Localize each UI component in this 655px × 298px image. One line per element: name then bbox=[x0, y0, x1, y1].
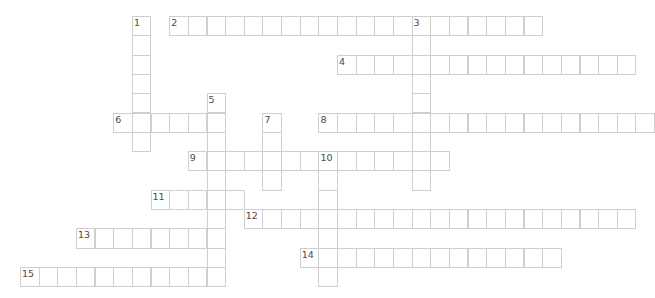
crossword-cell[interactable] bbox=[524, 113, 544, 133]
crossword-cell[interactable] bbox=[207, 248, 227, 268]
crossword-cell[interactable] bbox=[132, 35, 152, 55]
crossword-cell[interactable] bbox=[356, 209, 376, 229]
crossword-cell[interactable] bbox=[356, 16, 376, 36]
crossword-cell[interactable] bbox=[430, 55, 450, 75]
crossword-cell[interactable] bbox=[580, 113, 600, 133]
crossword-cell[interactable] bbox=[95, 228, 115, 248]
crossword-cell[interactable] bbox=[207, 151, 227, 171]
crossword-cell[interactable] bbox=[356, 113, 376, 133]
crossword-cell[interactable] bbox=[188, 190, 208, 210]
crossword-cell[interactable] bbox=[169, 113, 189, 133]
crossword-cell[interactable] bbox=[300, 151, 320, 171]
crossword-cell[interactable]: 14 bbox=[300, 248, 320, 268]
crossword-cell[interactable] bbox=[374, 113, 394, 133]
crossword-cell[interactable] bbox=[281, 151, 301, 171]
crossword-cell[interactable] bbox=[542, 55, 562, 75]
crossword-cell[interactable] bbox=[430, 209, 450, 229]
crossword-cell[interactable] bbox=[412, 170, 432, 190]
crossword-cell[interactable] bbox=[542, 209, 562, 229]
crossword-cell[interactable] bbox=[132, 228, 152, 248]
crossword-cell[interactable] bbox=[95, 267, 115, 287]
crossword-cell[interactable] bbox=[449, 55, 469, 75]
crossword-cell[interactable] bbox=[169, 228, 189, 248]
crossword-cell[interactable] bbox=[356, 55, 376, 75]
crossword-cell[interactable] bbox=[262, 170, 282, 190]
crossword-cell[interactable] bbox=[449, 16, 469, 36]
crossword-cell[interactable] bbox=[132, 93, 152, 113]
crossword-cell[interactable] bbox=[262, 151, 282, 171]
crossword-cell[interactable] bbox=[113, 267, 133, 287]
crossword-cell[interactable] bbox=[598, 55, 618, 75]
crossword-cell[interactable] bbox=[374, 248, 394, 268]
crossword-cell[interactable] bbox=[468, 248, 488, 268]
crossword-cell[interactable] bbox=[412, 93, 432, 113]
crossword-cell[interactable] bbox=[225, 151, 245, 171]
crossword-cell[interactable] bbox=[169, 267, 189, 287]
crossword-cell[interactable] bbox=[300, 16, 320, 36]
crossword-cell[interactable] bbox=[412, 113, 432, 133]
crossword-cell[interactable] bbox=[580, 55, 600, 75]
crossword-cell[interactable]: 5 bbox=[207, 93, 227, 113]
crossword-cell[interactable] bbox=[561, 209, 581, 229]
crossword-cell[interactable] bbox=[505, 55, 525, 75]
crossword-cell[interactable] bbox=[207, 16, 227, 36]
crossword-cell[interactable] bbox=[318, 170, 338, 190]
crossword-cell[interactable] bbox=[374, 209, 394, 229]
crossword-cell[interactable] bbox=[337, 248, 357, 268]
crossword-cell[interactable] bbox=[524, 16, 544, 36]
crossword-cell[interactable] bbox=[151, 113, 171, 133]
crossword-cell[interactable] bbox=[393, 55, 413, 75]
crossword-cell[interactable] bbox=[151, 267, 171, 287]
crossword-cell[interactable] bbox=[505, 113, 525, 133]
crossword-cell[interactable] bbox=[132, 74, 152, 94]
crossword-cell[interactable]: 9 bbox=[188, 151, 208, 171]
crossword-cell[interactable] bbox=[393, 209, 413, 229]
crossword-cell[interactable] bbox=[76, 267, 96, 287]
crossword-cell[interactable] bbox=[412, 209, 432, 229]
crossword-cell[interactable] bbox=[374, 151, 394, 171]
crossword-cell[interactable] bbox=[207, 132, 227, 152]
crossword-cell[interactable] bbox=[356, 248, 376, 268]
crossword-cell[interactable] bbox=[207, 228, 227, 248]
crossword-cell[interactable] bbox=[468, 113, 488, 133]
crossword-cell[interactable] bbox=[281, 16, 301, 36]
crossword-cell[interactable] bbox=[486, 16, 506, 36]
crossword-cell[interactable] bbox=[486, 113, 506, 133]
crossword-cell[interactable] bbox=[449, 248, 469, 268]
crossword-cell[interactable] bbox=[524, 209, 544, 229]
crossword-cell[interactable] bbox=[225, 190, 245, 210]
crossword-cell[interactable] bbox=[57, 267, 77, 287]
crossword-cell[interactable] bbox=[430, 113, 450, 133]
crossword-cell[interactable] bbox=[412, 248, 432, 268]
crossword-cell[interactable] bbox=[561, 113, 581, 133]
crossword-cell[interactable] bbox=[598, 209, 618, 229]
crossword-cell[interactable] bbox=[393, 113, 413, 133]
crossword-cell[interactable] bbox=[337, 16, 357, 36]
crossword-cell[interactable] bbox=[207, 113, 227, 133]
crossword-cell[interactable] bbox=[486, 55, 506, 75]
crossword-cell[interactable] bbox=[337, 113, 357, 133]
crossword-cell[interactable]: 10 bbox=[318, 151, 338, 171]
crossword-cell[interactable] bbox=[225, 16, 245, 36]
crossword-cell[interactable] bbox=[207, 170, 227, 190]
crossword-cell[interactable] bbox=[524, 55, 544, 75]
crossword-cell[interactable] bbox=[374, 55, 394, 75]
crossword-cell[interactable]: 12 bbox=[244, 209, 264, 229]
crossword-cell[interactable] bbox=[505, 16, 525, 36]
crossword-cell[interactable] bbox=[356, 151, 376, 171]
crossword-cell[interactable] bbox=[430, 151, 450, 171]
crossword-cell[interactable] bbox=[468, 55, 488, 75]
crossword-cell[interactable] bbox=[561, 55, 581, 75]
crossword-cell[interactable] bbox=[374, 16, 394, 36]
crossword-cell[interactable] bbox=[468, 209, 488, 229]
crossword-cell[interactable] bbox=[318, 190, 338, 210]
crossword-cell[interactable] bbox=[524, 248, 544, 268]
crossword-cell[interactable] bbox=[188, 267, 208, 287]
crossword-cell[interactable] bbox=[132, 267, 152, 287]
crossword-cell[interactable] bbox=[262, 132, 282, 152]
crossword-cell[interactable] bbox=[505, 209, 525, 229]
crossword-cell[interactable]: 13 bbox=[76, 228, 96, 248]
crossword-cell[interactable] bbox=[412, 55, 432, 75]
crossword-cell[interactable] bbox=[318, 16, 338, 36]
crossword-cell[interactable] bbox=[113, 228, 133, 248]
